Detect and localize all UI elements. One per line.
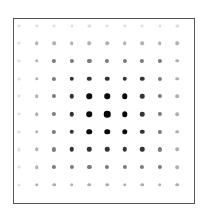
grid-dot (87, 129, 93, 135)
grid-dot (105, 183, 109, 187)
grid-dot (105, 41, 109, 45)
grid-dot (176, 59, 180, 63)
grid-dot (122, 129, 128, 135)
grid-dot (35, 112, 39, 116)
canvas (0, 0, 205, 210)
grid-dot (176, 41, 180, 45)
grid-dot (122, 76, 127, 81)
grid-dot (122, 94, 128, 100)
grid-dot (140, 76, 145, 81)
grid-dot (104, 94, 110, 100)
grid-dot (123, 41, 127, 45)
grid-dot (35, 59, 39, 63)
grid-dot (88, 183, 92, 187)
grid-dot (70, 41, 74, 45)
grid-dot (35, 183, 39, 187)
grid-dot (105, 76, 110, 81)
grid-dot (52, 41, 56, 45)
grid-dot (123, 183, 127, 187)
grid-dot (87, 94, 93, 100)
grid-dot (140, 129, 145, 134)
grid-dot (88, 41, 92, 45)
grid-dot (158, 183, 162, 187)
grid-dot (176, 77, 180, 81)
grid-dot (140, 147, 145, 152)
grid-dot (87, 147, 92, 152)
grid-dot (104, 129, 110, 135)
grid-dot (140, 41, 144, 45)
grid-dot (158, 41, 162, 45)
grid-dot (35, 165, 39, 169)
grid-dot (105, 147, 110, 152)
grid-dot (70, 147, 75, 152)
grid-dot (87, 76, 92, 81)
grid-dot (176, 165, 180, 169)
grid-dot (70, 94, 75, 99)
grid-dot (176, 95, 180, 99)
grid-dot (140, 94, 145, 99)
grid-dot (87, 111, 93, 117)
grid-dot (140, 112, 145, 117)
grid-dot (70, 112, 75, 117)
grid-dot (35, 148, 39, 152)
grid-dot (176, 148, 180, 152)
grid-dot (140, 183, 144, 187)
grid-dot (104, 111, 111, 118)
grid-dot (35, 77, 39, 81)
grid-dot (70, 129, 75, 134)
grid-dot (35, 41, 39, 45)
grid-dot (176, 130, 180, 134)
grid-dot (70, 183, 74, 187)
grid-dot (122, 147, 127, 152)
grid-dot (52, 183, 56, 187)
grid-dot (176, 183, 180, 187)
grid-dot (122, 111, 128, 117)
grid-dot (176, 112, 180, 116)
grid-dot (35, 130, 39, 134)
grid-dot (35, 95, 39, 99)
grid-dot (70, 76, 75, 81)
